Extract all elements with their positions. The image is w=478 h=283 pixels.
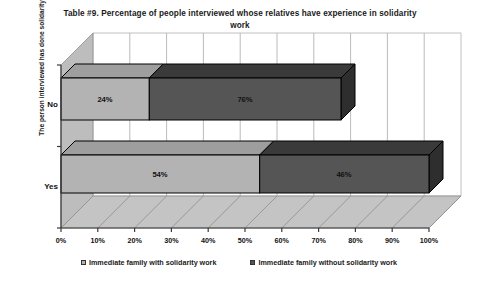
bar-no-without-top	[149, 64, 355, 78]
chart-container: Table #9. Percentage of people interview…	[0, 0, 478, 283]
x-tick-30: 30%	[156, 236, 186, 245]
category-label-yes: Yes	[22, 182, 58, 191]
x-tick-10: 10%	[83, 236, 113, 245]
legend-swatch-without-icon	[250, 260, 255, 265]
x-tick-0: 0%	[46, 236, 76, 245]
legend-swatch-with-icon	[81, 260, 86, 265]
x-tick-80: 80%	[340, 236, 370, 245]
value-label-no-without: 76%	[225, 95, 265, 104]
x-tick-20: 20%	[120, 236, 150, 245]
legend-item-without[interactable]: Immediate family without solidarity work	[250, 258, 397, 267]
legend-label-with: Immediate family with solidarity work	[89, 258, 216, 267]
value-label-yes-without: 46%	[324, 170, 364, 179]
value-label-yes-with: 54%	[140, 170, 180, 179]
x-tick-60: 60%	[267, 236, 297, 245]
value-label-no-with: 24%	[85, 95, 125, 104]
legend: Immediate family with solidarity work Im…	[0, 258, 478, 267]
bar-no-with-top	[61, 64, 163, 78]
y-axis-title: The person interviewed has done solidari…	[38, 0, 47, 149]
legend-item-with[interactable]: Immediate family with solidarity work	[81, 258, 216, 267]
x-tick-70: 70%	[304, 236, 334, 245]
x-tick-90: 90%	[377, 236, 407, 245]
x-tick-50: 50%	[230, 236, 260, 245]
bar-yes-without-top	[260, 141, 443, 155]
x-tick-40: 40%	[193, 236, 223, 245]
legend-label-without: Immediate family without solidarity work	[258, 258, 397, 267]
x-axis-ticks	[61, 228, 429, 232]
category-label-no: No	[22, 100, 58, 109]
x-tick-100: 100%	[414, 236, 444, 245]
bar-yes	[61, 141, 443, 193]
bar-yes-with-top	[61, 141, 274, 155]
bar-no	[61, 64, 355, 120]
left-side-wall	[61, 33, 93, 228]
